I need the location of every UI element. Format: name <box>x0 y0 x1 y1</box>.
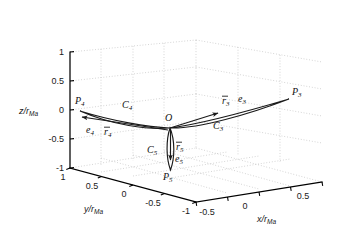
svg-text:e5: e5 <box>175 153 183 166</box>
svg-text:r3: r3 <box>222 95 230 108</box>
svg-text:y/rMa: y/rMa <box>83 204 103 215</box>
label-r4-sub: 4 <box>108 131 112 139</box>
label-r3-sub: 3 <box>225 100 230 108</box>
z-tick-0: 0 <box>59 105 64 115</box>
x-axis-label: x/rMa <box>256 214 276 225</box>
x-tick-0: 0 <box>242 201 247 211</box>
svg-text:P3: P3 <box>291 86 302 99</box>
label-P3-sub: 3 <box>297 91 302 99</box>
svg-text:C4: C4 <box>122 99 133 112</box>
label-P4: P4 <box>74 95 85 108</box>
label-e3-sub: 3 <box>241 98 246 106</box>
label-P3: P3 <box>291 86 302 99</box>
label-P3-name: P <box>291 86 298 97</box>
y-axis-label-sub: Ma <box>94 208 103 215</box>
label-P4-sub: 4 <box>81 100 85 108</box>
label-e4-sub: 4 <box>90 129 94 137</box>
y-tick-05: 0.5 <box>86 181 99 191</box>
label-C5-sub: 5 <box>154 149 158 157</box>
svg-text:e4: e4 <box>86 124 94 137</box>
z-axis-label-sub: Ma <box>29 110 38 117</box>
label-P5-name: P <box>162 171 169 182</box>
svg-text:e3: e3 <box>238 93 246 106</box>
label-C4: C4 <box>122 99 133 112</box>
svg-text:C5: C5 <box>147 144 158 157</box>
svg-text:z/rMa: z/rMa <box>18 106 38 117</box>
svg-text:x/rMa: x/rMa <box>256 214 276 225</box>
plot-canvas: 1 0.5 0 -0.5 -1 1 0.5 0 -0.5 -1 -0.5 0 0… <box>0 0 338 242</box>
label-C5: C5 <box>147 144 158 157</box>
label-P5-sub: 5 <box>169 176 173 184</box>
label-C3-sub: 3 <box>219 125 224 133</box>
curve-C4 <box>80 111 170 128</box>
label-origin: O <box>165 112 172 123</box>
label-r5-sub: 5 <box>180 146 184 154</box>
svg-text:r4: r4 <box>104 126 112 139</box>
figure-3d-plot: 1 0.5 0 -0.5 -1 1 0.5 0 -0.5 -1 -0.5 0 0… <box>0 0 338 242</box>
vector-r4-arrow <box>82 117 168 130</box>
curve-C3 <box>170 99 289 128</box>
y-tick-neg1: -1 <box>182 206 190 216</box>
x-axis-label-sub: Ma <box>267 218 276 225</box>
z-tick-1: 1 <box>59 47 64 57</box>
y-tick-neg05: -0.5 <box>145 198 161 208</box>
label-r3: r3 <box>222 95 230 108</box>
z-axis-label: z/rMa <box>18 106 38 117</box>
label-C4-sub: 4 <box>129 104 133 112</box>
label-e5: e5 <box>175 153 183 166</box>
grid-floor <box>70 148 322 193</box>
z-tick-neg05: -0.5 <box>48 134 64 144</box>
label-r4: r4 <box>104 126 112 139</box>
z-tick-05: 0.5 <box>51 76 64 86</box>
svg-text:P5: P5 <box>162 171 173 184</box>
label-e5-sub: 5 <box>179 158 183 166</box>
label-P4-name: P <box>74 95 81 106</box>
label-P5: P5 <box>162 171 173 184</box>
x-tick-05: 0.5 <box>297 191 310 201</box>
svg-text:P4: P4 <box>74 95 85 108</box>
y-tick-0: 0 <box>121 189 126 199</box>
x-tick-neg05: -0.5 <box>199 207 215 217</box>
y-axis-label: y/rMa <box>83 204 103 215</box>
label-e3: e3 <box>238 93 246 106</box>
svg-text:C3: C3 <box>213 120 224 133</box>
y-tick-1: 1 <box>60 172 65 182</box>
grid-back-wall-xz <box>196 40 322 162</box>
label-C3: C3 <box>213 120 224 133</box>
label-e4: e4 <box>86 124 94 137</box>
